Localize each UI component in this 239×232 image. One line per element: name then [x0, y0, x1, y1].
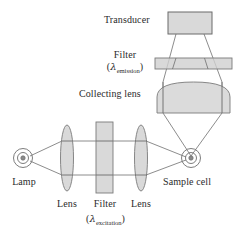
label-transducer: Transducer [104, 14, 150, 25]
label-filter-excitation: Filter [86, 198, 124, 209]
collecting-lens-shape [157, 82, 230, 113]
lamp-shape [14, 149, 33, 168]
label-filter-emission-wavelength: (λemission) [96, 61, 154, 76]
lens-excitation-2-shape [135, 125, 148, 191]
transducer-shape [168, 12, 212, 34]
excitation-ray-lower-from-lamp [30, 161, 62, 175]
label-collecting-lens: Collecting lens [79, 88, 141, 99]
label-lamp: Lamp [4, 176, 44, 187]
excitation-ray-lower-to-cell [146, 160, 186, 175]
label-filter-emission: Filter [96, 49, 154, 60]
label-lens-left: Lens [48, 198, 86, 209]
lens-excitation-1-shape [61, 125, 74, 191]
filter-emission-shape [155, 58, 232, 69]
label-sample-cell: Sample cell [163, 176, 211, 187]
filter-excitation-shape [96, 122, 113, 193]
excitation-ray-upper-to-cell [146, 141, 186, 157]
subscript-excitation: excitation [96, 219, 122, 226]
sample-cell-shape [182, 149, 201, 168]
subscript-emission: emission [117, 67, 140, 74]
paren-close: ) [140, 61, 143, 72]
figure-canvas: Transducer Filter (λemission) Collecting… [0, 0, 239, 232]
label-filter-excitation-wavelength: (λexcitation) [86, 213, 124, 228]
excitation-ray-upper-from-lamp [30, 141, 62, 156]
label-lens-right: Lens [122, 198, 160, 209]
